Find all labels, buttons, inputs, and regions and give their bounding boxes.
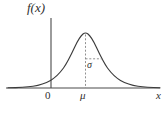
x-axis-label: x bbox=[156, 90, 161, 101]
normal-curve-path bbox=[8, 33, 160, 88]
std-dev-label: σ bbox=[87, 60, 92, 70]
origin-label: 0 bbox=[45, 90, 51, 101]
normal-distribution-figure: f(x) x 0 μ σ bbox=[0, 0, 167, 116]
mean-label: μ bbox=[80, 90, 86, 101]
y-axis-label: f(x) bbox=[27, 1, 45, 14]
